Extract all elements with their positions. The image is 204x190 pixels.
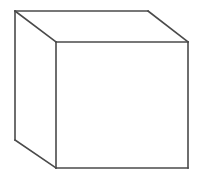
- cube-figure-canvas: [0, 0, 204, 190]
- cube-face-front: [56, 42, 188, 168]
- cube-diagram: [0, 0, 204, 190]
